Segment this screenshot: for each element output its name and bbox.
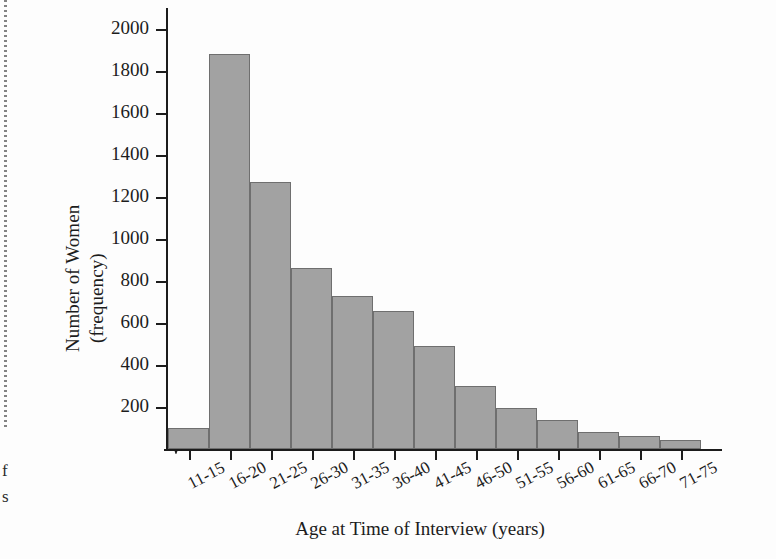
bar	[291, 268, 332, 449]
y-axis-title-line-2: (frequency)	[86, 253, 108, 343]
plot-area: 200400600800100012001400160018002000	[166, 8, 722, 451]
x-category-label: 66-70	[636, 458, 679, 492]
x-axis-title: Age at Time of Interview (years)	[230, 518, 610, 540]
x-category-label: 31-35	[349, 458, 392, 492]
x-category-label: 21-25	[267, 458, 310, 492]
bar	[250, 182, 291, 449]
bar	[619, 436, 660, 449]
y-tick-label: 1000	[111, 228, 149, 247]
bar	[209, 54, 250, 449]
margin-glyph-bottom: s	[2, 488, 9, 505]
bar	[578, 432, 619, 449]
x-axis-category-labels: 11-1516-2021-2526-3031-3536-4041-4546-50…	[166, 451, 726, 516]
x-category-label: 26-30	[308, 458, 351, 492]
page-edge-dotted-artifact	[4, 0, 7, 430]
bar	[537, 420, 578, 449]
y-tick-label: 1400	[111, 144, 149, 163]
bar	[414, 346, 455, 449]
histogram-figure: f s Number of Women (frequency) 20040060…	[0, 0, 776, 559]
margin-glyph-top: f	[2, 462, 8, 479]
y-axis-title: Number of Women (frequency)	[38, 120, 108, 370]
x-category-label: 46-50	[472, 458, 515, 492]
y-tick-label: 800	[121, 270, 150, 289]
x-category-label: 41-45	[431, 458, 474, 492]
x-category-label: 51-55	[513, 458, 556, 492]
bar	[373, 311, 414, 449]
x-category-label: 16-20	[226, 458, 269, 492]
y-axis-title-line-1: Number of Women	[62, 205, 84, 352]
y-tick-label: 200	[121, 396, 150, 415]
x-category-label: 56-60	[554, 458, 597, 492]
x-category-label: 36-40	[390, 458, 433, 492]
bar	[168, 428, 209, 449]
x-category-label: 71-75	[677, 458, 720, 492]
bar	[455, 386, 496, 449]
y-tick-label: 400	[121, 354, 150, 373]
y-tick-label: 1600	[111, 102, 149, 121]
y-tick-label: 600	[121, 312, 150, 331]
bar	[660, 440, 701, 449]
x-category-label: 61-65	[595, 458, 638, 492]
bar	[332, 296, 373, 449]
y-tick-label: 1200	[111, 186, 149, 205]
y-tick-label: 2000	[111, 18, 149, 37]
bar	[496, 408, 537, 449]
bar-series	[166, 8, 722, 451]
x-category-label: 11-15	[185, 459, 227, 492]
y-tick-label: 1800	[111, 60, 149, 79]
